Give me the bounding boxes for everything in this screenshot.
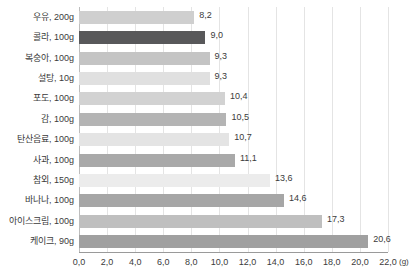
bar[interactable] bbox=[79, 235, 368, 248]
bar-row: 10,4 bbox=[79, 92, 388, 105]
x-tick-label: 18,0 bbox=[323, 255, 341, 269]
bar[interactable] bbox=[79, 92, 225, 105]
category-label: 포도, 100g bbox=[0, 92, 74, 105]
bar[interactable] bbox=[79, 133, 229, 146]
bar-value-label: 8,2 bbox=[199, 9, 212, 22]
bar-rows: 8,29,09,39,310,410,510,711,113,614,617,3… bbox=[79, 7, 388, 252]
category-label: 참외, 150g bbox=[0, 174, 74, 187]
x-tick-label: 16,0 bbox=[295, 255, 313, 269]
x-axis-tick-labels: 0,02,04,06,08,010,012,014,016,018,020,02… bbox=[0, 255, 416, 271]
x-tick-label: 8,0 bbox=[185, 255, 198, 269]
bar-row: 9,3 bbox=[79, 52, 388, 65]
x-tick-label: 0,0 bbox=[73, 255, 86, 269]
bar-row: 10,5 bbox=[79, 113, 388, 126]
bar[interactable] bbox=[79, 215, 322, 228]
x-tick-label: 14,0 bbox=[267, 255, 285, 269]
category-label: 바나나, 100g bbox=[0, 194, 74, 207]
category-label: 케이크, 90g bbox=[0, 235, 74, 248]
bar-row: 8,2 bbox=[79, 11, 388, 24]
bar-row: 20,6 bbox=[79, 235, 388, 248]
category-label: 탄산음료, 100g bbox=[0, 133, 74, 146]
bar-value-label: 13,6 bbox=[275, 172, 293, 185]
category-label: 우유, 200g bbox=[0, 11, 74, 24]
category-label: 감, 100g bbox=[0, 113, 74, 126]
x-tick-label: 22,0 bbox=[379, 255, 397, 269]
bar-value-label: 20,6 bbox=[373, 233, 391, 246]
x-axis-line bbox=[79, 252, 388, 253]
x-axis-unit-label: (g) bbox=[399, 255, 409, 269]
bar-value-label: 14,6 bbox=[289, 192, 307, 205]
category-label: 사과, 100g bbox=[0, 154, 74, 167]
bar-row: 17,3 bbox=[79, 215, 388, 228]
gridline-22-0 bbox=[388, 7, 389, 252]
bar[interactable] bbox=[79, 72, 210, 85]
category-label: 아이스크림, 100g bbox=[0, 215, 74, 228]
bar-value-label: 10,4 bbox=[230, 90, 248, 103]
plot-area: 8,29,09,39,310,410,510,711,113,614,617,3… bbox=[79, 7, 388, 252]
category-label: 설탕, 10g bbox=[0, 72, 74, 85]
x-tick-label: 10,0 bbox=[211, 255, 229, 269]
category-axis: 우유, 200g콜라, 100g복숭아, 100g설탕, 10g포도, 100g… bbox=[0, 7, 74, 252]
bar-value-label: 9,0 bbox=[210, 29, 223, 42]
bar-row: 9,0 bbox=[79, 31, 388, 44]
bar[interactable] bbox=[79, 11, 194, 24]
bar-value-label: 9,3 bbox=[215, 50, 228, 63]
bar[interactable] bbox=[79, 31, 205, 44]
bar-chart: 우유, 200g콜라, 100g복숭아, 100g설탕, 10g포도, 100g… bbox=[0, 0, 416, 280]
bar[interactable] bbox=[79, 194, 284, 207]
category-label: 복숭아, 100g bbox=[0, 52, 74, 65]
x-tick-label: 4,0 bbox=[129, 255, 142, 269]
bar-row: 9,3 bbox=[79, 72, 388, 85]
bar[interactable] bbox=[79, 174, 270, 187]
bar-row: 10,7 bbox=[79, 133, 388, 146]
category-label: 콜라, 100g bbox=[0, 31, 74, 44]
bar[interactable] bbox=[79, 113, 226, 126]
bar[interactable] bbox=[79, 154, 235, 167]
x-tick-label: 20,0 bbox=[351, 255, 369, 269]
bar-value-label: 10,7 bbox=[234, 131, 252, 144]
bar-row: 11,1 bbox=[79, 154, 388, 167]
bar-value-label: 9,3 bbox=[215, 70, 228, 83]
bar-row: 13,6 bbox=[79, 174, 388, 187]
bar[interactable] bbox=[79, 52, 210, 65]
bar-value-label: 11,1 bbox=[240, 152, 257, 165]
bar-row: 14,6 bbox=[79, 194, 388, 207]
bar-value-label: 10,5 bbox=[231, 111, 249, 124]
x-tick-label: 2,0 bbox=[101, 255, 114, 269]
bar-value-label: 17,3 bbox=[327, 213, 345, 226]
x-tick-label: 12,0 bbox=[239, 255, 257, 269]
x-tick-label: 6,0 bbox=[157, 255, 170, 269]
